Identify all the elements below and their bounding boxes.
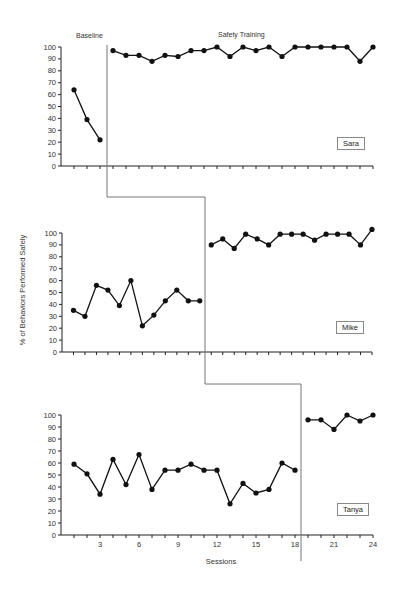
data-point [197, 298, 202, 303]
data-point [323, 232, 328, 237]
y-tick-label: 0 [53, 348, 57, 357]
y-tick-label: 20 [49, 324, 57, 333]
participant-label-tanya: Tanya [337, 503, 369, 516]
y-tick-label: 50 [49, 288, 57, 297]
baseline-line [74, 90, 100, 140]
x-tick-label: 6 [137, 540, 141, 549]
data-point [71, 308, 76, 313]
y-tick-label: 30 [49, 312, 57, 321]
data-point [149, 487, 154, 492]
x-tick-label: 3 [98, 540, 102, 549]
y-tick-label: 60 [48, 459, 56, 468]
y-tick-label: 10 [48, 150, 56, 159]
baseline-phase-label: Baseline [76, 32, 103, 39]
data-point [186, 298, 191, 303]
participant-label-mike: Mike [336, 321, 364, 334]
data-point [253, 490, 258, 495]
data-point [369, 227, 374, 232]
data-point [84, 471, 89, 476]
data-point [227, 54, 232, 59]
data-point [232, 246, 237, 251]
data-point [318, 44, 323, 49]
y-tick-label: 50 [48, 102, 56, 111]
data-point [82, 314, 87, 319]
data-point [140, 323, 145, 328]
data-point [266, 487, 271, 492]
data-point [279, 54, 284, 59]
x-tick-label: 12 [213, 540, 221, 549]
y-tick-label: 60 [49, 276, 57, 285]
data-point [370, 412, 375, 417]
data-point [110, 457, 115, 462]
data-point [253, 48, 258, 53]
data-point [312, 238, 317, 243]
data-point [162, 468, 167, 473]
data-point [289, 232, 294, 237]
y-axis-title: % of Behaviors Performed Safely [18, 235, 27, 345]
data-point [123, 53, 128, 58]
data-point [301, 232, 306, 237]
data-point [123, 482, 128, 487]
x-axis-title: Sessions [206, 557, 236, 566]
y-tick-label: 60 [48, 90, 56, 99]
data-point [105, 288, 110, 293]
x-tick-label: 9 [176, 540, 180, 549]
data-point [305, 417, 310, 422]
y-tick-label: 90 [48, 423, 56, 432]
y-tick-label: 30 [48, 126, 56, 135]
data-point [255, 236, 260, 241]
data-point [174, 288, 179, 293]
y-tick-label: 50 [48, 471, 56, 480]
y-tick-label: 80 [49, 252, 57, 261]
data-point [201, 468, 206, 473]
data-point [175, 468, 180, 473]
data-point [149, 59, 154, 64]
data-point [240, 44, 245, 49]
data-point [151, 313, 156, 318]
data-point [331, 44, 336, 49]
y-tick-label: 40 [49, 300, 57, 309]
y-tick-label: 100 [43, 411, 56, 420]
participant-label-sara: Sara [337, 137, 365, 150]
multiple-baseline-chart: 0102030405060708090100010203040506070809… [0, 0, 399, 589]
y-tick-label: 80 [48, 66, 56, 75]
data-point [209, 242, 214, 247]
data-point [97, 492, 102, 497]
y-tick-label: 0 [52, 162, 56, 171]
data-point [344, 412, 349, 417]
y-tick-label: 10 [49, 336, 57, 345]
y-tick-label: 40 [48, 483, 56, 492]
data-point [162, 53, 167, 58]
y-tick-label: 100 [43, 43, 56, 52]
y-tick-label: 20 [48, 138, 56, 147]
data-point [278, 232, 283, 237]
data-point [136, 53, 141, 58]
data-point [128, 278, 133, 283]
data-point [240, 481, 245, 486]
data-point [357, 418, 362, 423]
y-tick-label: 70 [48, 78, 56, 87]
data-point [358, 242, 363, 247]
data-point [71, 462, 76, 467]
data-point [136, 452, 141, 457]
y-tick-label: 40 [48, 114, 56, 123]
data-point [175, 54, 180, 59]
y-tick-label: 10 [48, 519, 56, 528]
data-point [84, 117, 89, 122]
data-point [305, 44, 310, 49]
treatment-line [308, 415, 373, 429]
data-point [292, 44, 297, 49]
y-tick-label: 80 [48, 435, 56, 444]
data-point [71, 87, 76, 92]
y-tick-label: 70 [48, 447, 56, 456]
data-point [163, 298, 168, 303]
data-point [214, 468, 219, 473]
treatment-phase-label: Safety Training [218, 31, 265, 38]
x-tick-label: 18 [291, 540, 299, 549]
y-tick-label: 90 [48, 54, 56, 63]
baseline-line [73, 281, 199, 326]
data-point [188, 48, 193, 53]
y-tick-label: 90 [49, 240, 57, 249]
y-tick-label: 0 [52, 531, 56, 540]
baseline-line [74, 455, 295, 504]
